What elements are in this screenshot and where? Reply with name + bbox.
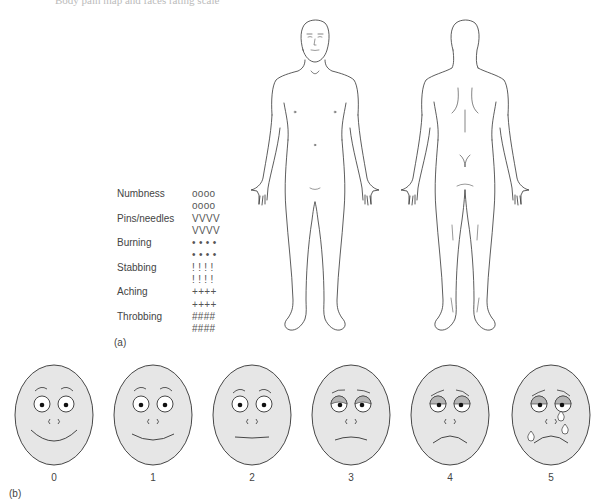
legend-symbol: VVVV: [192, 225, 220, 237]
face-1: [114, 365, 192, 465]
pupil: [238, 403, 243, 408]
face-score-label: 2: [242, 472, 262, 483]
legend-label: Pins/needles: [117, 213, 174, 225]
part-b-label: (b): [9, 488, 21, 499]
pupil: [459, 403, 464, 408]
legend-label: Aching: [117, 286, 148, 298]
face-outline: [312, 365, 390, 465]
pupil: [262, 403, 267, 408]
legend-symbol: oooo: [192, 200, 215, 212]
legend-symbol: VVVV: [192, 213, 220, 225]
legend-symbol: ! ! ! !: [192, 274, 214, 286]
face-score-label: 5: [541, 472, 561, 483]
face-score-label: 3: [341, 472, 361, 483]
face-outline: [15, 365, 93, 465]
legend-label: Throbbing: [117, 311, 162, 323]
face-score-label: 1: [143, 472, 163, 483]
pupil: [64, 403, 69, 408]
pupil: [538, 403, 543, 408]
figures-canvas: [0, 0, 603, 503]
legend-symbol: oooo: [192, 188, 215, 200]
face-outline: [114, 365, 192, 465]
legend-symbol: ####: [192, 323, 215, 335]
face-3: [312, 365, 390, 465]
legend-label: Burning: [117, 237, 151, 249]
pupil: [360, 403, 365, 408]
face-score-label: 0: [44, 472, 64, 483]
legend-symbol: ####: [192, 311, 215, 323]
pupil: [163, 403, 168, 408]
legend-symbol: ++++: [192, 286, 217, 298]
legend-label: Numbness: [117, 188, 165, 200]
pupil: [338, 403, 343, 408]
pupil: [40, 403, 45, 408]
faces-scale: [15, 365, 590, 465]
legend-label: Stabbing: [117, 262, 156, 274]
pupil: [437, 403, 442, 408]
pupil: [560, 403, 565, 408]
back-body-figure: [401, 20, 529, 330]
face-outline: [213, 365, 291, 465]
face-2: [213, 365, 291, 465]
part-a-label: (a): [114, 337, 126, 348]
face-0: [15, 365, 93, 465]
face-score-label: 4: [440, 472, 460, 483]
front-body-figure: [251, 20, 379, 330]
pupil: [139, 403, 144, 408]
face-outline: [512, 365, 590, 465]
face-outline: [411, 365, 489, 465]
face-4: [411, 365, 489, 465]
legend-symbol: ++++: [192, 299, 217, 311]
legend-symbol: • • • •: [192, 237, 216, 249]
legend-symbol: ! ! ! !: [192, 262, 214, 274]
legend-symbol: • • • •: [192, 249, 216, 261]
face-5: [512, 365, 590, 465]
